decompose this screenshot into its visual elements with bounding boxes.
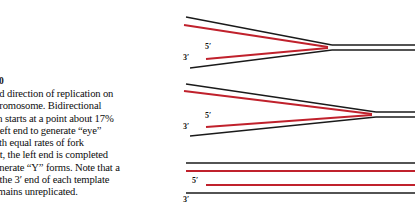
figure-page: 17-20 n and direction of replication on … [0,0,415,204]
caption-line: ment, the left end is completed [0,149,160,161]
figure-caption: 17-20 n and direction of replication on … [0,76,160,199]
label-five-prime: 5′ [205,111,211,120]
panel-y-form-completed: 5′ 3′ [183,163,415,204]
template-strand-upper [186,17,332,45]
nascent-strand-upper [184,91,372,114]
label-three-prime: 3′ [183,122,189,131]
label-five-prime: 5′ [205,42,211,51]
caption-line: . With equal rates of fork [0,137,160,149]
panel-eye-form-early: 5′ 3′ [183,17,415,68]
caption-line: d remains unreplicated. [0,186,160,198]
label-three-prime: 3′ [183,195,189,204]
label-five-prime: 5′ [192,176,198,185]
nascent-strand-lower [206,48,328,59]
caption-line: 7 chromosome. Bidirectional [0,100,160,112]
caption-figure-number: 17-20 [0,76,160,87]
caption-line: the left end to generate “eye” [0,125,160,137]
replication-diagram: 5′ 3′ 5′ 3′ 5′ 3′ [180,0,415,204]
caption-line: o generate “Y” forms. Note that a [0,162,160,174]
nascent-strand-lower [206,115,372,127]
template-strand-upper [186,84,376,112]
panel-eye-form-later: 5′ 3′ [183,84,415,136]
caption-line: n at the 3′ end of each template [0,174,160,186]
label-three-prime: 3′ [183,53,189,62]
caption-body: n and direction of replication on 7 chro… [0,88,160,199]
caption-line: ation starts at a point about 17% [0,113,160,125]
caption-line: n and direction of replication on [0,88,160,100]
